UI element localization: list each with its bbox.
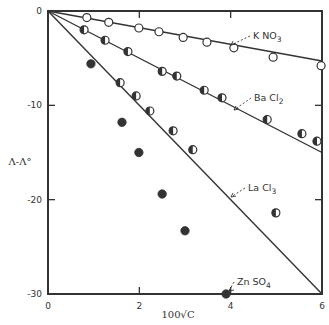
series-annotations: K NO3Ba Cl2La Cl3Zn SO4 bbox=[229, 30, 284, 291]
data-point-lacl3 bbox=[146, 107, 154, 115]
annotation-leader bbox=[231, 36, 250, 45]
open-circle-marker bbox=[269, 53, 277, 61]
data-point-bacl2 bbox=[173, 72, 181, 80]
axis-ticks: 02460-10-20-30 bbox=[27, 6, 325, 311]
data-point-kno3 bbox=[83, 14, 91, 22]
data-point-lacl3 bbox=[189, 146, 197, 154]
data-point-znso4 bbox=[181, 227, 189, 235]
filled-circle-marker bbox=[87, 60, 95, 68]
data-point-bacl2 bbox=[298, 130, 306, 138]
annotation-leader bbox=[234, 98, 251, 110]
x-tick-label: 2 bbox=[136, 301, 142, 311]
x-tick-label: 0 bbox=[45, 301, 51, 311]
data-point-bacl2 bbox=[124, 48, 132, 56]
data-point-kno3 bbox=[135, 24, 143, 32]
data-point-kno3 bbox=[317, 62, 325, 70]
y-tick-label: -10 bbox=[27, 100, 42, 110]
y-axis-label: Λ-Λ° bbox=[8, 156, 32, 167]
y-tick-label: -30 bbox=[27, 289, 42, 299]
data-point-lacl3 bbox=[169, 127, 177, 135]
open-circle-marker bbox=[203, 38, 211, 46]
y-tick-label: 0 bbox=[36, 6, 42, 16]
data-point-bacl2 bbox=[200, 86, 208, 94]
data-point-bacl2 bbox=[80, 26, 88, 34]
data-points bbox=[80, 14, 325, 299]
data-point-lacl3 bbox=[132, 92, 140, 100]
series-label-bacl2: Ba Cl2 bbox=[254, 92, 284, 106]
data-point-bacl2 bbox=[313, 137, 321, 145]
data-point-kno3 bbox=[179, 33, 187, 41]
data-point-kno3 bbox=[155, 28, 163, 36]
annotation-leader bbox=[231, 188, 245, 197]
filled-circle-marker bbox=[158, 190, 166, 198]
data-point-bacl2 bbox=[101, 36, 109, 44]
open-circle-marker bbox=[155, 28, 163, 36]
filled-circle-marker bbox=[135, 148, 143, 156]
data-point-kno3 bbox=[203, 38, 211, 46]
x-axis-label: 100√C bbox=[161, 309, 194, 320]
limiting-lines bbox=[48, 11, 322, 294]
data-point-znso4 bbox=[135, 148, 143, 156]
data-point-lacl3 bbox=[116, 79, 124, 87]
series-label-znso4: Zn SO4 bbox=[237, 276, 271, 290]
data-point-bacl2 bbox=[158, 67, 166, 75]
x-tick-label: 4 bbox=[228, 301, 234, 311]
open-circle-marker bbox=[83, 14, 91, 22]
open-circle-marker bbox=[317, 62, 325, 70]
series-label-lacl3: La Cl3 bbox=[248, 182, 276, 196]
filled-circle-marker bbox=[181, 227, 189, 235]
y-tick-label: -20 bbox=[27, 195, 42, 205]
chart: 02460-10-20-30 K NO3Ba Cl2La Cl3Zn SO4 1… bbox=[0, 0, 329, 325]
data-point-kno3 bbox=[105, 18, 113, 26]
data-point-znso4 bbox=[158, 190, 166, 198]
data-point-znso4 bbox=[118, 118, 126, 126]
x-tick-label: 6 bbox=[319, 301, 325, 311]
open-circle-marker bbox=[105, 18, 113, 26]
data-point-znso4 bbox=[87, 60, 95, 68]
data-point-bacl2 bbox=[218, 94, 226, 102]
open-circle-marker bbox=[179, 33, 187, 41]
data-point-lacl3 bbox=[272, 209, 280, 217]
data-point-kno3 bbox=[269, 53, 277, 61]
filled-circle-marker bbox=[118, 118, 126, 126]
arrowhead-icon bbox=[229, 287, 234, 291]
limiting-line-bacl2 bbox=[48, 11, 322, 153]
open-circle-marker bbox=[135, 24, 143, 32]
series-label-kno3: K NO3 bbox=[253, 30, 282, 44]
data-point-bacl2 bbox=[263, 115, 271, 123]
